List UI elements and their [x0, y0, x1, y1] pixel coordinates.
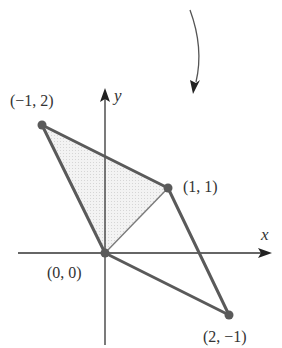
edge-b-c — [168, 188, 229, 315]
label-origin: (0, 0) — [47, 264, 82, 282]
point-origin — [101, 249, 110, 258]
x-axis — [18, 248, 272, 258]
x-axis-label: x — [260, 225, 269, 244]
point-b — [164, 184, 173, 193]
point-a — [38, 121, 47, 130]
label-point-c: (2, −1) — [203, 328, 247, 346]
y-axis-label: y — [112, 86, 122, 105]
point-c — [225, 311, 234, 320]
label-point-a: (−1, 2) — [10, 92, 54, 110]
curved-arrow-icon — [190, 10, 200, 94]
diagram-canvas: (−1, 2) (1, 1) (0, 0) (2, −1) x y — [0, 0, 282, 348]
edge-c-origin — [105, 253, 229, 315]
label-point-b: (1, 1) — [183, 178, 218, 196]
